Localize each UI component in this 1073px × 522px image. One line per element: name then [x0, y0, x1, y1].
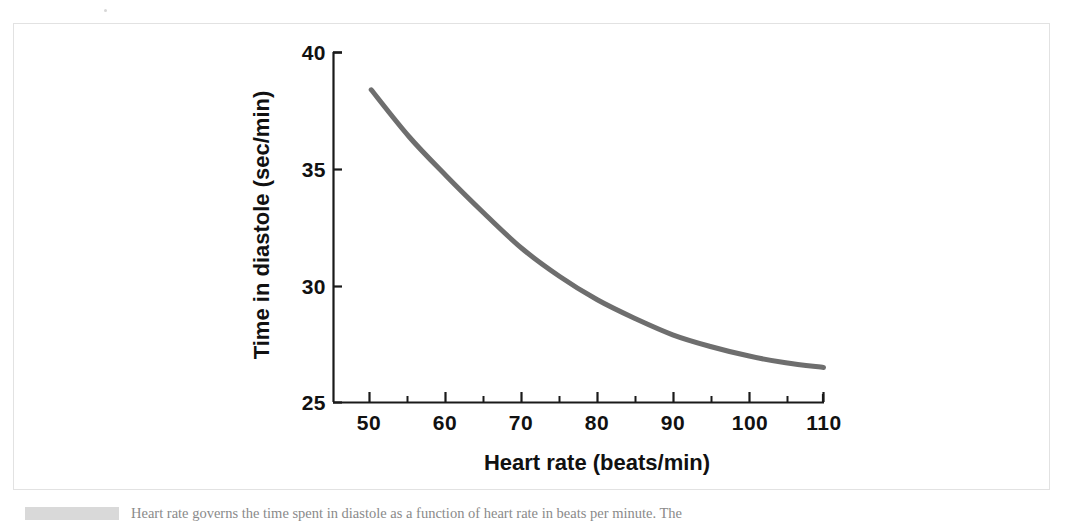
x-tick-label-90: 90 [661, 411, 685, 435]
figure-caption-text: Heart rate governs the time spent in dia… [131, 505, 682, 521]
x-tick-label-70: 70 [509, 411, 533, 435]
y-tick-label-30: 30 [286, 275, 326, 299]
x-tick-label-60: 60 [433, 411, 457, 435]
y-tick-label-40: 40 [286, 41, 326, 65]
y-tick-label-35: 35 [286, 158, 326, 182]
y-axis-title: Time in diastole (sec/min) [249, 91, 275, 360]
x-tick-label-100: 100 [732, 411, 769, 435]
figure-caption-row: Heart rate governs the time spent in dia… [13, 505, 1063, 522]
x-tick-label-50: 50 [357, 411, 381, 435]
y-tick-label-25: 25 [286, 391, 326, 415]
caption-highlight-tag [25, 507, 119, 520]
scan-artifact-speck [104, 9, 107, 12]
x-tick-label-110: 110 [806, 411, 841, 435]
x-tick-label-80: 80 [585, 411, 609, 435]
x-axis-title: Heart rate (beats/min) [484, 450, 710, 476]
